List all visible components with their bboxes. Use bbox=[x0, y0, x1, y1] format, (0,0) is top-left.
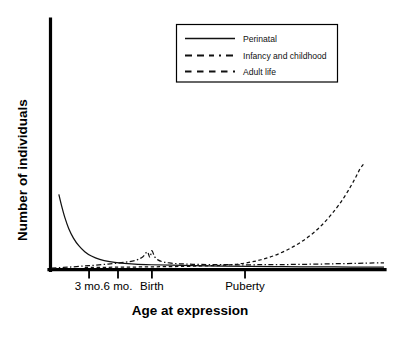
x-axis-tick-label-1: 3 mo. bbox=[75, 281, 104, 293]
series-line-adult-life bbox=[85, 164, 364, 267]
y-axis-title: Number of individuals bbox=[16, 99, 30, 241]
legend-label-perinatal: Perinatal bbox=[243, 35, 277, 44]
series-line-perinatal bbox=[59, 194, 384, 267]
x-axis-tick-label-4: Puberty bbox=[225, 281, 265, 293]
x-axis-tick-marks bbox=[89, 271, 245, 279]
chart-plot-area bbox=[0, 0, 407, 337]
x-axis-title: Age at expression bbox=[0, 304, 380, 318]
x-axis-tick-label-2: 6 mo. bbox=[104, 281, 133, 293]
legend-label-infancy-and-childhood: Infancy and childhood bbox=[243, 52, 327, 61]
legend-label-adult-life: Adult life bbox=[243, 68, 276, 77]
x-axis-tick-label-3: Birth bbox=[140, 281, 164, 293]
chart-figure: Perinatal Infancy and childhood Adult li… bbox=[0, 0, 407, 337]
